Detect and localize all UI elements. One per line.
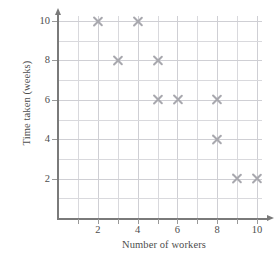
data-point-marker xyxy=(91,15,104,28)
x-tick-mark xyxy=(118,219,119,224)
x-tick-mark xyxy=(138,219,139,224)
grid-line-vertical xyxy=(138,16,139,218)
y-tick-label: 2 xyxy=(20,173,50,184)
x-axis-arrow-icon xyxy=(267,215,274,221)
y-tick-label: 10 xyxy=(20,15,50,26)
x-tick-mark xyxy=(217,219,218,224)
x-tick-label: 6 xyxy=(164,224,190,236)
grid-line-horizontal xyxy=(58,80,262,81)
x-tick-label: 4 xyxy=(125,224,151,236)
y-axis-arrow-icon xyxy=(55,8,61,15)
data-point-marker xyxy=(111,54,124,67)
x-tick-mark xyxy=(98,219,99,224)
grid-line-horizontal xyxy=(58,21,262,22)
x-tick-mark xyxy=(158,219,159,224)
y-tick-label: 8 xyxy=(20,54,50,65)
x-tick-label: 8 xyxy=(204,224,230,236)
data-point-marker xyxy=(251,172,264,185)
data-point-marker xyxy=(211,93,224,106)
x-tick-label: 10 xyxy=(244,224,270,236)
grid-line-vertical xyxy=(177,16,178,218)
grid-line-horizontal xyxy=(58,159,262,160)
data-point-marker xyxy=(211,133,224,146)
y-tick-mark xyxy=(52,179,57,180)
grid-line-vertical xyxy=(237,16,238,218)
x-tick-mark xyxy=(177,219,178,224)
y-tick-mark xyxy=(52,21,57,22)
x-tick-mark xyxy=(78,219,79,224)
x-axis-title: Number of workers xyxy=(58,239,270,250)
grid-line-vertical xyxy=(257,16,258,218)
x-tick-mark xyxy=(237,219,238,224)
plot-area xyxy=(58,16,262,218)
grid-line-horizontal xyxy=(58,120,262,121)
grid-line-vertical xyxy=(197,16,198,218)
grid-line-vertical xyxy=(217,16,218,218)
y-tick-mark xyxy=(52,60,57,61)
grid-line-horizontal xyxy=(58,139,262,140)
y-tick-mark xyxy=(52,100,57,101)
y-axis-line xyxy=(57,14,59,220)
x-tick-mark xyxy=(197,219,198,224)
data-point-marker xyxy=(151,54,164,67)
data-point-marker xyxy=(231,172,244,185)
grid-line-vertical xyxy=(158,16,159,218)
grid-line-vertical xyxy=(118,16,119,218)
x-tick-label: 2 xyxy=(85,224,111,236)
y-tick-label: 4 xyxy=(20,133,50,144)
y-tick-mark xyxy=(52,139,57,140)
data-point-marker xyxy=(131,15,144,28)
y-tick-labels: 246810 xyxy=(18,0,50,265)
grid-line-vertical xyxy=(78,16,79,218)
grid-line-vertical xyxy=(98,16,99,218)
data-point-marker xyxy=(151,93,164,106)
y-tick-label: 6 xyxy=(20,94,50,105)
data-point-marker xyxy=(171,93,184,106)
scatter-chart: Time taken (weeks) Number of workers 246… xyxy=(0,0,280,265)
grid-line-horizontal xyxy=(58,41,262,42)
grid-line-horizontal xyxy=(58,198,262,199)
x-tick-mark xyxy=(257,219,258,224)
